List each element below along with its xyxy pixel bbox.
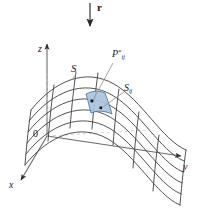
y-axis-line [47,136,181,156]
surface-label: S [71,63,77,74]
x-axis-line [21,136,47,180]
mesh-u-curve-5 [25,132,180,205]
highlighted-patch-sij [86,91,112,114]
patch-subscript: ij [129,87,132,94]
origin-label: 0 [33,129,38,139]
figure-canvas [0,0,198,214]
vector-r-label: r [97,2,102,13]
sample-point-subscript: ij [122,53,125,60]
mesh-u-curve-4 [26,121,181,194]
sample-point-label: P*ij [112,49,125,60]
mesh-v-curve-6 [153,135,159,191]
z-axis-label: z [38,44,42,54]
surface-integral-figure: r z S P*ij Sij 0 y x [0,0,198,214]
x-axis-label: x [9,180,13,190]
mesh-v-curve-5 [133,112,139,168]
mesh-u-curve-3 [27,110,182,183]
mesh-v-curve-0 [25,110,31,165]
surface-mesh [25,72,186,205]
y-axis-label: y [183,162,187,172]
sample-point-secondary [100,107,103,110]
patch-label: Sij [124,83,132,94]
mesh-v-curve-1 [48,85,54,141]
mesh-v-curve-7 [180,150,186,205]
coordinate-axes [21,44,181,180]
